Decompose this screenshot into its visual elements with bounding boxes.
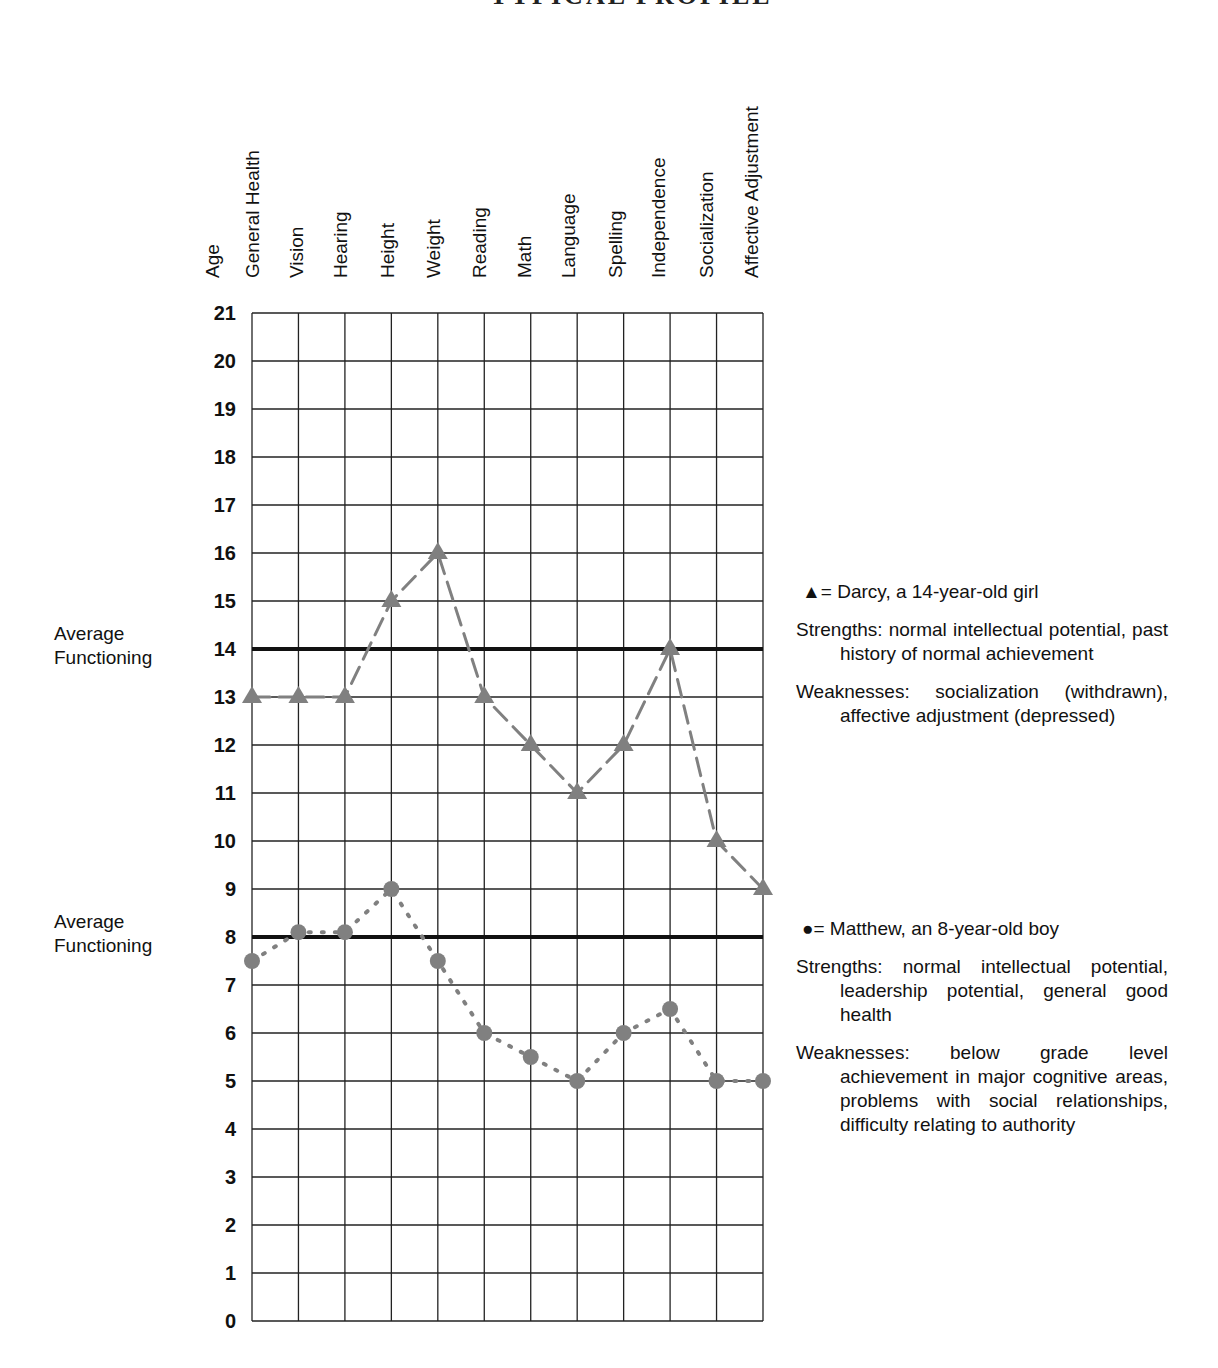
darcy-strengths: Strengths: normal intellectual potential… (796, 618, 1168, 666)
circle-marker (616, 1025, 632, 1041)
triangle-icon: ▲ (802, 581, 821, 602)
circle-marker (430, 953, 446, 969)
circle-marker (290, 924, 306, 940)
darcy-weaknesses: Weaknesses: socialization (withdrawn), a… (796, 680, 1168, 728)
triangle-marker (242, 686, 262, 703)
legend-key-text: = Darcy, a 14-year-old girl (821, 581, 1039, 602)
triangle-marker (707, 830, 727, 847)
legend-key-darcy: ▲= Darcy, a 14-year-old girl (802, 580, 1168, 604)
darcy-line (252, 553, 763, 889)
triangle-marker (428, 542, 448, 559)
matthew-weaknesses: Weaknesses: below grade level achievemen… (796, 1041, 1168, 1137)
circle-marker (709, 1073, 725, 1089)
circle-marker (383, 881, 399, 897)
circle-marker (662, 1001, 678, 1017)
circle-marker (523, 1049, 539, 1065)
circle-icon: ● (802, 918, 813, 939)
circle-marker (569, 1073, 585, 1089)
triangle-marker (335, 686, 355, 703)
legend-darcy: ▲= Darcy, a 14-year-old girl Strengths: … (796, 580, 1168, 742)
legend-key-matthew: ●= Matthew, an 8-year-old boy (802, 917, 1168, 941)
triangle-marker (381, 590, 401, 607)
triangle-marker (288, 686, 308, 703)
circle-marker (755, 1073, 771, 1089)
legend-matthew: ●= Matthew, an 8-year-old boy Strengths:… (796, 917, 1168, 1151)
triangle-marker (474, 686, 494, 703)
legend-key-text: = Matthew, an 8-year-old boy (813, 918, 1059, 939)
circle-marker (244, 953, 260, 969)
matthew-strengths: Strengths: normal intellectual potential… (796, 955, 1168, 1027)
triangle-marker (614, 734, 634, 751)
circle-marker (476, 1025, 492, 1041)
circle-marker (337, 924, 353, 940)
triangle-marker (660, 638, 680, 655)
